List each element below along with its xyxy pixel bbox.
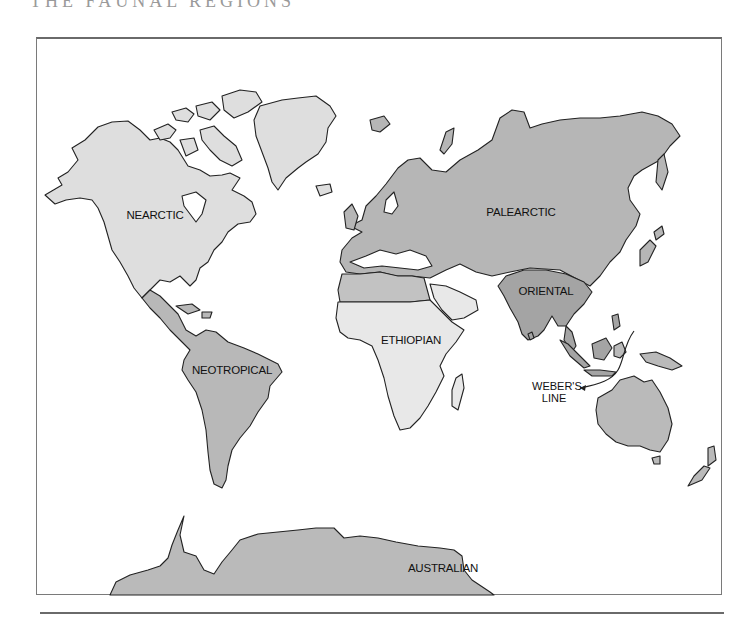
- region-neotropical-shape: [142, 290, 282, 488]
- australia-shape: [596, 376, 672, 452]
- antarctica-shape: [110, 516, 494, 595]
- label-ethiopian: ETHIOPIAN: [381, 334, 441, 346]
- label-australian: AUSTRALIAN: [408, 562, 478, 574]
- region-ethiopian-shape: [336, 300, 464, 430]
- bottom-rule: [40, 612, 724, 614]
- label-nearctic: NEARCTIC: [126, 209, 183, 221]
- label-webers-line-2: LINE: [532, 392, 576, 404]
- label-oriental: ORIENTAL: [518, 285, 573, 297]
- world-map: [0, 0, 745, 630]
- region-oriental-shape: [498, 270, 592, 340]
- label-neotropical: NEOTROPICAL: [192, 364, 272, 376]
- greenland-shape: [254, 96, 336, 190]
- label-palearctic: PALEARCTIC: [486, 206, 555, 218]
- label-webers-line-1: WEBER'S: [532, 380, 576, 392]
- new-guinea-shape: [640, 352, 682, 370]
- label-webers-line: WEBER'S LINE: [532, 380, 576, 404]
